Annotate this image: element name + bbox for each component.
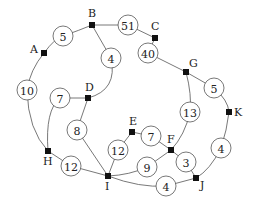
svg-text:F: F (167, 133, 175, 146)
svg-text:G: G (189, 57, 198, 70)
node-e: E (129, 115, 137, 135)
svg-text:7: 7 (148, 131, 155, 144)
svg-text:12: 12 (64, 161, 78, 174)
svg-text:H: H (43, 155, 53, 168)
svg-text:I: I (105, 180, 109, 193)
weight-d-i: 8 (67, 120, 87, 140)
node-h: H (43, 148, 53, 168)
weight-e-f: 7 (141, 126, 161, 146)
node-j: J (193, 175, 204, 192)
node-d: D (85, 81, 94, 101)
graph-diagram: 5 51 40 4 10 7 8 12 12 7 13 5 4 3 9 4 A … (0, 0, 255, 208)
weight-g-k: 5 (204, 78, 224, 98)
svg-text:A: A (29, 43, 39, 56)
svg-text:9: 9 (144, 162, 151, 175)
svg-text:4: 4 (218, 143, 225, 156)
node-b: B (88, 7, 96, 28)
weight-d-h: 7 (50, 88, 70, 108)
node-f: F (167, 133, 175, 153)
svg-text:B: B (88, 7, 96, 20)
weight-g-f: 13 (180, 102, 200, 122)
svg-text:E: E (129, 115, 137, 128)
edge-a-h (27, 53, 48, 151)
weight-labels: 5 51 40 4 10 7 8 12 12 7 13 5 4 3 9 4 (17, 15, 231, 196)
weight-k-j: 4 (211, 138, 231, 158)
weight-a-h: 10 (17, 80, 37, 100)
svg-text:5: 5 (60, 31, 67, 44)
svg-text:3: 3 (183, 157, 190, 170)
svg-text:40: 40 (141, 48, 155, 61)
weight-b-c: 51 (118, 15, 138, 35)
weight-b-d: 4 (101, 48, 121, 68)
weight-f-j: 3 (176, 152, 196, 172)
node-a: A (29, 43, 47, 56)
svg-text:8: 8 (74, 125, 81, 138)
node-i: I (105, 173, 111, 193)
svg-text:51: 51 (121, 20, 135, 33)
svg-text:7: 7 (57, 93, 64, 106)
weight-a-b: 5 (53, 26, 73, 46)
svg-text:4: 4 (108, 53, 115, 66)
edge-i-j (108, 176, 196, 186)
node-c: C (151, 20, 159, 41)
svg-text:J: J (199, 179, 204, 192)
weight-e-i: 12 (108, 140, 128, 160)
svg-text:10: 10 (20, 85, 34, 98)
svg-text:D: D (85, 81, 94, 94)
svg-text:12: 12 (111, 145, 125, 158)
weight-c-g: 40 (138, 43, 158, 63)
node-g: G (183, 57, 198, 75)
svg-text:5: 5 (211, 83, 218, 96)
svg-text:4: 4 (163, 181, 170, 194)
weight-h-i: 12 (61, 156, 81, 176)
svg-text:K: K (234, 106, 243, 119)
svg-text:13: 13 (183, 107, 197, 120)
weight-i-j: 4 (156, 176, 176, 196)
svg-text:C: C (151, 20, 159, 33)
weight-f-i: 9 (137, 157, 157, 177)
